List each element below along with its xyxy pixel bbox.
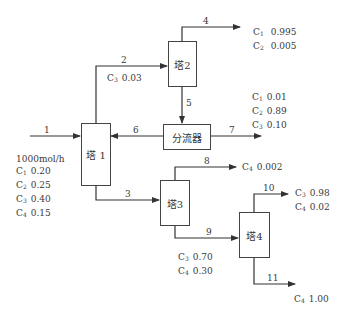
feed-flow: 1000mol/h (16, 153, 65, 165)
stream-4-line (182, 27, 240, 41)
stream-11-composition: C41.00 (294, 293, 329, 307)
tower-2[interactable]: 塔2 (168, 41, 197, 87)
stream-4-number: 4 (203, 16, 209, 27)
stream-8-number: 8 (204, 156, 210, 167)
feed-composition: 1000mol/h C10.20 C20.25 C30.40 C40.15 (16, 153, 65, 221)
splitter-label: 分流器 (172, 130, 202, 145)
stream-9-number: 9 (206, 227, 212, 238)
stream-8-line (175, 167, 236, 180)
tower-3[interactable]: 塔3 (160, 180, 190, 226)
tower-3-label: 塔3 (167, 196, 183, 211)
stream-7-composition: C10.01 C20.89 C30.10 (252, 91, 287, 133)
stream-2-composition: C30.03 (107, 72, 142, 86)
feed-c3: C30.40 (16, 193, 65, 207)
stream-1-number: 1 (44, 125, 50, 136)
stream-3-number: 3 (125, 189, 131, 200)
stream-10-number: 10 (263, 183, 274, 194)
tower-1[interactable]: 塔 1 (81, 123, 111, 186)
tower-2-label: 塔2 (174, 57, 190, 72)
stream-10-line (254, 194, 288, 212)
feed-c4: C40.15 (16, 207, 65, 221)
feed-c1: C10.20 (16, 165, 65, 179)
stream-11-number: 11 (267, 273, 278, 284)
stream-6-number: 6 (133, 125, 139, 136)
tower-4-label: 塔4 (246, 228, 262, 243)
feed-c2: C20.25 (16, 179, 65, 193)
stream-2-number: 2 (121, 55, 127, 66)
tower-4[interactable]: 塔4 (239, 212, 270, 258)
stream-10-composition: C30.98 C40.02 (295, 187, 330, 215)
stream-8-composition: C40.002 (242, 161, 282, 175)
tower-1-label: 塔 1 (86, 147, 106, 162)
stream-9-composition: C30.70 C40.30 (178, 251, 213, 279)
stream-5-number: 5 (186, 98, 192, 109)
splitter[interactable]: 分流器 (163, 124, 211, 150)
stream-7-number: 7 (229, 125, 235, 136)
stream-4-composition: C10.995 C20.005 (253, 26, 296, 54)
